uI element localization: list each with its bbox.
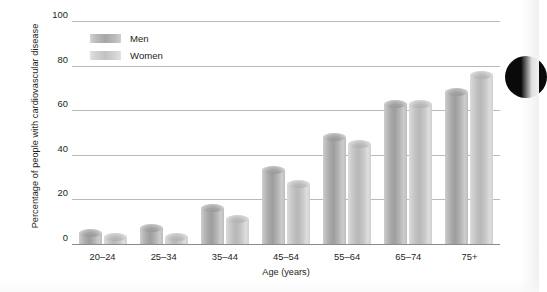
y-tick-label: 40 [38, 144, 68, 154]
bar-body [384, 104, 407, 244]
legend-swatch-men [90, 34, 121, 43]
bar-body [348, 144, 371, 244]
bar-women-25_34 [165, 233, 188, 244]
legend-label: Women [130, 50, 163, 61]
legend-swatch-women [90, 51, 121, 60]
legend-item-women: Women [90, 47, 210, 64]
bar-cap [79, 229, 102, 237]
bar-body [323, 137, 346, 244]
x-tick-label: 65–74 [378, 251, 438, 263]
chart-legend: MenWomen [90, 30, 210, 64]
bar-men-75+ [445, 88, 468, 244]
bar-cap [287, 180, 310, 188]
bar-women-45_54 [287, 180, 310, 244]
bar-men-20_24 [79, 229, 102, 244]
y-tick-label: 20 [38, 188, 68, 198]
y-axis-tick-labels: 020406080100 [36, 21, 68, 244]
x-tick-label: 25–34 [134, 251, 194, 263]
bar-men-35_44 [201, 204, 224, 244]
bar-men-25_34 [140, 224, 163, 244]
x-axis-tick-labels: 20–2425–3435–4445–5455–6465–7475+ [72, 251, 500, 265]
scan-edge-right [521, 0, 539, 292]
bar-women-35_44 [226, 215, 249, 244]
bar-cap [409, 100, 432, 108]
bar-body [201, 208, 224, 244]
bar-men-65_74 [384, 100, 407, 244]
y-tick-label: 80 [38, 55, 68, 65]
x-axis-title: Age (years) [72, 266, 500, 278]
legend-label: Men [130, 33, 149, 44]
bar-cap [470, 71, 493, 79]
legend-item-men: Men [90, 30, 210, 47]
bar-body [226, 219, 249, 244]
bar-men-45_54 [262, 166, 285, 244]
bar-cap [348, 140, 371, 148]
x-tick-label: 75+ [439, 251, 499, 263]
bar-body [287, 184, 310, 244]
bar-cap [384, 100, 407, 108]
bar-women-55_64 [348, 140, 371, 244]
y-tick-label: 100 [38, 10, 68, 20]
y-tick-label: 0 [38, 233, 68, 243]
x-tick-label: 55–64 [317, 251, 377, 263]
bar-body [262, 170, 285, 244]
x-tick-label: 45–54 [256, 251, 316, 263]
gridline-0 [72, 244, 500, 245]
scan-edge-bottom [0, 280, 539, 292]
x-tick-label: 20–24 [73, 251, 133, 263]
bar-cap [323, 133, 346, 141]
bar-men-55_64 [323, 133, 346, 244]
bar-body [409, 104, 432, 244]
bar-body [470, 75, 493, 244]
x-tick-label: 35–44 [195, 251, 255, 263]
bar-women-65_74 [409, 100, 432, 244]
bar-women-75+ [470, 71, 493, 244]
y-tick-label: 60 [38, 99, 68, 109]
page-bullet-icon [505, 56, 547, 98]
bar-body [445, 92, 468, 244]
bar-women-20_24 [104, 233, 127, 244]
